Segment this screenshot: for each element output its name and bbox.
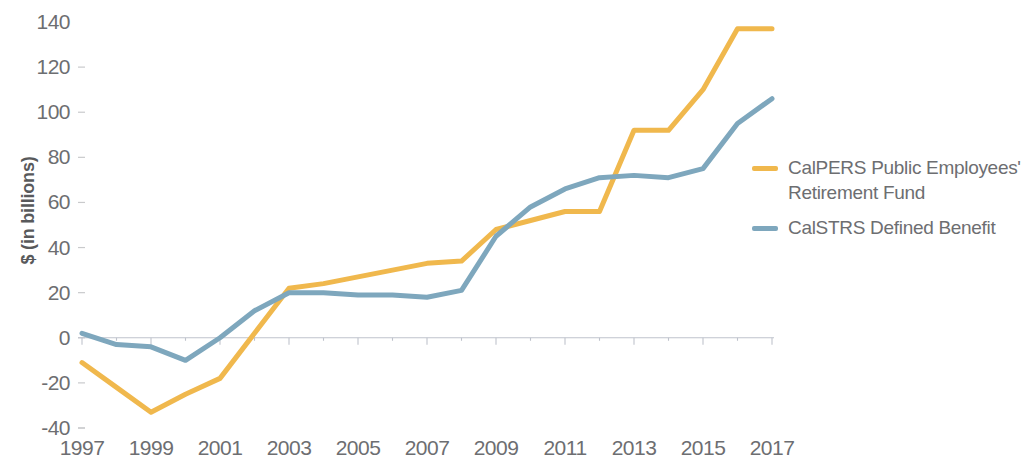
series-line-calstrs xyxy=(82,99,772,361)
series-layer xyxy=(82,29,772,412)
legend-item-calpers[interactable]: CalPERS Public Employees' Retirement Fun… xyxy=(752,155,1027,206)
legend-label-calpers-line2: Retirement Fund xyxy=(788,182,925,203)
legend-swatch-calstrs xyxy=(752,226,778,231)
legend-swatch-calpers xyxy=(752,166,778,171)
series-line-calpers xyxy=(82,29,772,412)
legend-label-calstrs: CalSTRS Defined Benefit xyxy=(788,215,995,240)
chart-legend: CalPERS Public Employees' Retirement Fun… xyxy=(752,155,1027,249)
legend-item-calstrs[interactable]: CalSTRS Defined Benefit xyxy=(752,215,1027,240)
legend-label-calpers: CalPERS Public Employees' Retirement Fun… xyxy=(788,155,1021,206)
axis-layer xyxy=(78,67,774,428)
chart-container: $ (in billions) 140120100806040200-20-40… xyxy=(0,0,1029,468)
legend-label-calstrs-line1: CalSTRS Defined Benefit xyxy=(788,217,995,238)
legend-label-calpers-line1: CalPERS Public Employees' xyxy=(788,157,1021,178)
